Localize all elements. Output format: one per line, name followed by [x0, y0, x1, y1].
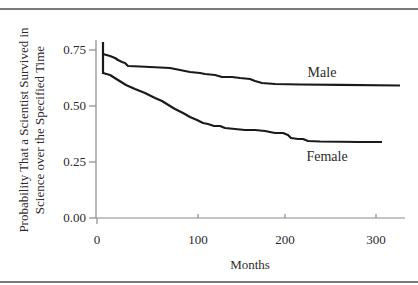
- x-tick-label: 200: [275, 232, 295, 247]
- y-tick-label: 0.00: [63, 210, 86, 225]
- x-axis-title: Months: [230, 257, 270, 272]
- survival-chart: 0.00 0.25 0.50 0.75 0 100 200 300 Months…: [0, 0, 418, 285]
- female-label: Female: [306, 149, 347, 164]
- x-tick-label: 100: [188, 232, 208, 247]
- male-label: Male: [308, 65, 337, 80]
- female-survival-curve: [103, 73, 382, 142]
- y-tick-label: 0.75: [63, 42, 86, 57]
- x-tick-label: 300: [366, 232, 386, 247]
- y-ticks: [89, 50, 96, 218]
- y-tick-label: 0.50: [63, 98, 86, 113]
- male-survival-curve: [103, 54, 400, 86]
- y-tick-label: 0.25: [63, 154, 86, 169]
- y-axis-title-line1: Probability That a Scientist Survived in: [16, 27, 31, 233]
- x-tick-label: 0: [94, 232, 101, 247]
- x-ticks: [97, 214, 376, 224]
- y-axis-title-line2: Science over the Specified Time: [32, 46, 47, 214]
- y-axis-title: Probability That a Scientist Survived in…: [16, 27, 47, 233]
